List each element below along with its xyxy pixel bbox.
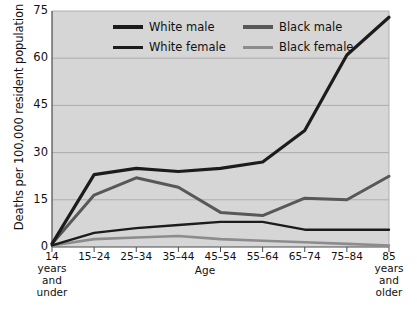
legend-item: White female: [113, 40, 226, 54]
x-tick-label-line: and: [22, 274, 82, 286]
x-tick-label-line: and: [359, 274, 417, 286]
legend-color-swatch: [113, 25, 143, 29]
legend-item: Black male: [243, 20, 342, 34]
legend-label: Black male: [279, 20, 342, 34]
x-tick-label-line: years: [22, 262, 82, 274]
legend-item: White male: [113, 20, 215, 34]
legend-label: White female: [149, 40, 226, 54]
x-tick-label-line: older: [359, 286, 417, 298]
legend-item: Black female: [243, 40, 353, 54]
chart-container: Deaths per 100,000 resident population 7…: [0, 0, 417, 312]
x-tick-label-line: years: [359, 262, 417, 274]
legend-label: Black female: [279, 40, 353, 54]
legend-label: White male: [149, 20, 215, 34]
legend-color-swatch: [113, 46, 143, 49]
legend-color-swatch: [243, 25, 273, 29]
x-tick-label: 85yearsandolder: [359, 250, 417, 298]
x-tick-label-line: under: [22, 286, 82, 298]
legend-color-swatch: [243, 46, 273, 49]
x-axis-title: Age: [175, 264, 235, 276]
x-tick-label-line: 85: [359, 250, 417, 262]
